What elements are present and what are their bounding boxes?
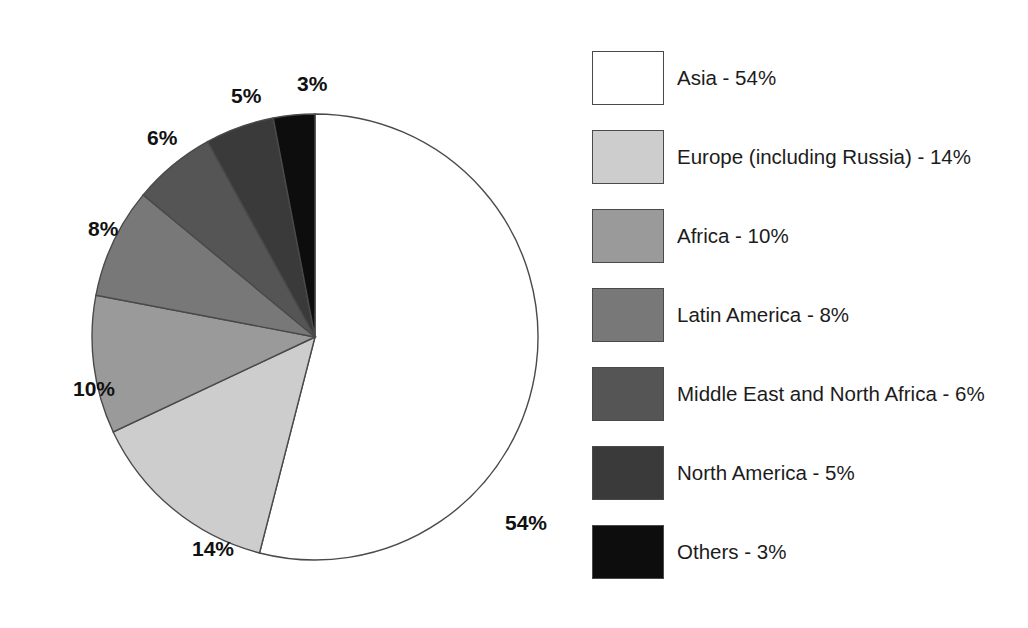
pie-slice-label: 5% (231, 85, 261, 106)
legend-item[interactable]: North America - 5% (592, 445, 1012, 501)
legend-item[interactable]: Others - 3% (592, 524, 1012, 580)
pie-plot-area: 54%14%10%8%6%5%3% (0, 0, 580, 628)
pie-slice-label: 8% (88, 218, 118, 239)
legend-item-label: North America - 5% (677, 462, 855, 485)
chart-legend: Asia - 54%Europe (including Russia) - 14… (592, 50, 1012, 603)
legend-item-label: Middle East and North Africa - 6% (677, 383, 985, 406)
legend-item[interactable]: Africa - 10% (592, 208, 1012, 264)
legend-item-label: Africa - 10% (677, 225, 789, 248)
pie-slice-group (92, 114, 538, 560)
pie-slice-label: 3% (297, 73, 327, 94)
pie-svg (0, 0, 580, 628)
legend-item[interactable]: Latin America - 8% (592, 287, 1012, 343)
legend-color-swatch (592, 51, 664, 105)
legend-color-swatch (592, 446, 664, 500)
pie-slice-label: 10% (73, 378, 115, 399)
legend-item-label: Europe (including Russia) - 14% (677, 146, 971, 169)
legend-item-label: Others - 3% (677, 541, 786, 564)
pie-slice-label: 54% (505, 512, 547, 533)
legend-color-swatch (592, 130, 664, 184)
legend-item-label: Asia - 54% (677, 67, 776, 90)
legend-color-swatch (592, 209, 664, 263)
legend-color-swatch (592, 525, 664, 579)
legend-color-swatch (592, 367, 664, 421)
legend-item-label: Latin America - 8% (677, 304, 849, 327)
pie-slice-label: 6% (147, 127, 177, 148)
legend-item[interactable]: Europe (including Russia) - 14% (592, 129, 1012, 185)
legend-item[interactable]: Middle East and North Africa - 6% (592, 366, 1012, 422)
pie-chart-figure: 54%14%10%8%6%5%3% Asia - 54%Europe (incl… (0, 0, 1028, 628)
pie-slice-label: 14% (192, 538, 234, 559)
legend-item[interactable]: Asia - 54% (592, 50, 1012, 106)
legend-color-swatch (592, 288, 664, 342)
